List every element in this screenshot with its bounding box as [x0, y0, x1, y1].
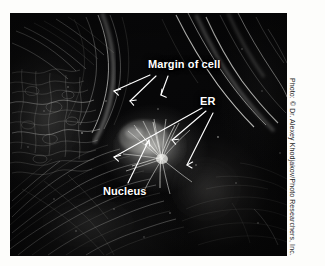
micrograph-structure: .fib { fill:none; stroke:#c9c9c5; stroke…	[10, 13, 287, 256]
photo-credit: Photo: © Dr. Alexey Khodjakov/Photo Rese…	[288, 78, 297, 254]
micrograph-photo-plate: .fib { fill:none; stroke:#c9c9c5; stroke…	[10, 13, 287, 256]
figure-root: .fib { fill:none; stroke:#c9c9c5; stroke…	[0, 0, 325, 266]
